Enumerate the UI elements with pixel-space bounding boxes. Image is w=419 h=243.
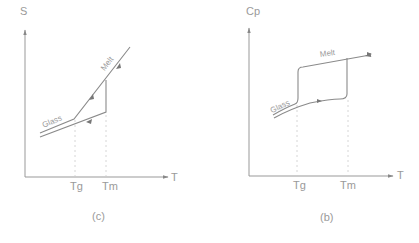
panel-a-y-axis-label: S: [20, 6, 27, 17]
panel-a-tick-tg: Tg: [70, 181, 83, 192]
panel-b-y-axis-label: Cp: [246, 6, 260, 17]
panel-a-x-axis-label: T: [171, 172, 178, 183]
panel-b-curves: [273, 55, 370, 118]
panel-a-tick-tm: Tm: [102, 181, 118, 192]
panel-b-tick-tm: Tm: [340, 180, 356, 191]
panel-b-tick-tg: Tg: [293, 180, 306, 191]
panel-b-ticks: [297, 100, 348, 176]
panel-a-arrows: [86, 63, 121, 124]
panel-a-caption: (c): [92, 211, 105, 222]
panel-a-ticks: [75, 115, 106, 177]
panel-b-caption: (b): [320, 212, 333, 223]
panel-a-axes: [25, 30, 168, 177]
panel-b-x-axis-label: T: [397, 170, 404, 181]
